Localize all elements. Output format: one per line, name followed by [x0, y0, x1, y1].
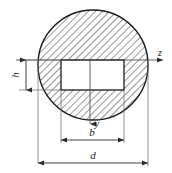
b-dimension-label: b	[89, 126, 95, 138]
technical-diagram: z y h b d	[0, 0, 172, 173]
h-dimension-label: h	[9, 72, 21, 78]
keyway-rectangle	[61, 60, 124, 90]
z-axis-label: z	[157, 47, 162, 58]
d-dimension-label: d	[90, 149, 96, 161]
cross-section-drawing: z y h b d	[0, 0, 172, 173]
